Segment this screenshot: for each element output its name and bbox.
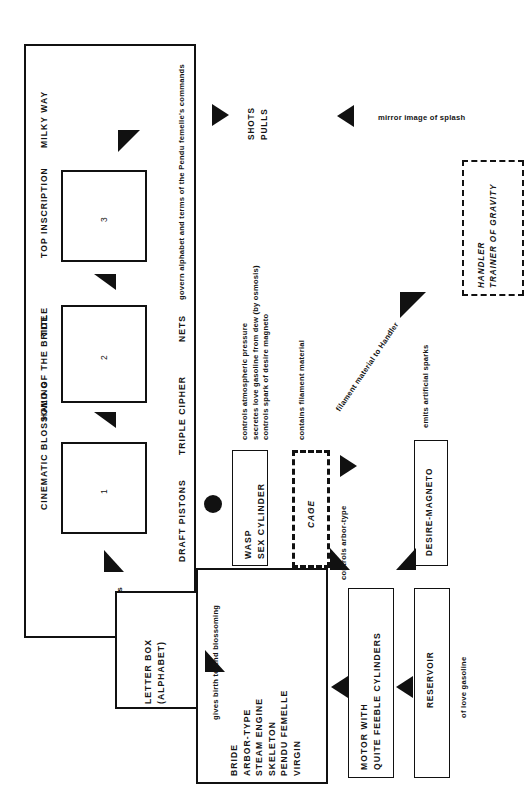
arrow-wedge-alphabetic-units [104,550,124,572]
arrow-shots-pulls [212,104,229,126]
arrow-wedge-panel2-to-panel3 [94,274,116,290]
numbered-panel-1 [61,442,147,534]
annotation-filament-to-handler: filament material to Handler [334,320,401,413]
strip-label-draft-pistons: DRAFT PISTONS [178,479,187,562]
cage-label: CAGE [307,500,315,528]
wasp-note-1: controls atmospheric pressure [240,265,251,440]
strip-label-milky-way: MILKY WAY [40,91,49,148]
arrow-wedge-milky-way [118,130,140,152]
numbered-panel-2 [61,305,147,403]
wasp-note-3: controls spark of desire magneto [261,265,272,440]
arrow-motor-left [331,676,348,698]
bride-list-item-pendu-femelle: PENDU FEMELLE [278,690,291,776]
motor-line1: MOTOR WITH [358,632,371,770]
annotation-contains-filament: contains filament material [298,340,306,440]
wasp-notes: controls atmospheric pressure secretes l… [240,265,272,440]
numbered-panel-3 [61,170,147,262]
handler-box-labels: HANDLER TRAINER OF GRAVITY [476,184,500,288]
strip-note-nets: govern alphabet and terms of the Pendu f… [178,64,186,300]
label-pulls: PULLS [261,108,269,140]
arrow-wedge-panel1-to-panel2 [94,412,116,428]
strip-label-top-inscription: TOP INSCRIPTION [40,167,49,258]
bride-list-item-virgin: VIRGIN [291,690,304,776]
strip-label-triple-cipher: TRIPLE CIPHER [178,376,187,455]
motor-line2: QUITE FEEBLE CYLINDERS [371,632,384,770]
bride-list-item-steam-engine: STEAM ENGINE [253,690,266,776]
arrow-reservoir-left [396,676,413,698]
letter-box-line2: (ALPHABET) [155,639,168,704]
annotation-emits-sparks: emits artificial sparks [422,345,430,428]
numbered-panel-3-label: 3 [100,217,109,222]
annotation-mirror-image-of-splash: mirror image of splash [378,114,465,122]
strip-label-title: TITLE [40,307,49,336]
handler-line1: HANDLER [476,184,488,288]
numbered-panel-1-label: 1 [100,489,109,494]
strip-label-nets: NETS [178,315,187,342]
sieve-dot [204,495,222,513]
bride-list-item-arbor-type: ARBOR-TYPE [241,690,254,776]
bride-list-item-bride: BRIDE [228,690,241,776]
arrow-wedge-to-handler [400,292,426,318]
wasp-note-2: secretes love gasoline from dew (by osmo… [251,265,262,440]
annotation-gives-birth: gives birth to 2nd blossoming [212,605,220,720]
bride-list-item-skeleton: SKELETON [266,690,279,776]
arrow-wedge-desire-magneto [396,548,416,570]
bride-list-labels: BRIDE ARBOR-TYPE STEAM ENGINE SKELETON P… [228,690,303,776]
wasp-line2: SEX CYLINDER [255,483,268,559]
wasp-line1: WASP [242,483,255,559]
handler-line2: TRAINER OF GRAVITY [488,184,500,288]
annotation-controls-arbor-type: controls arbor-type [340,506,348,580]
motor-box-labels: MOTOR WITH QUITE FEEBLE CYLINDERS [358,632,383,770]
arrow-mirror-splash [337,105,354,127]
arrow-cage-right [340,455,357,477]
reservoir-label: RESERVOIR [427,651,435,708]
desire-magneto-label: DESIRE-MAGNETO [426,468,434,556]
numbered-panel-2-label: 2 [100,355,109,360]
wasp-box-labels: WASP SEX CYLINDER [242,483,267,559]
letter-box-labels: LETTER BOX (ALPHABET) [142,639,167,704]
letter-box-line1: LETTER BOX [142,639,155,704]
label-shots: SHOTS [248,107,256,140]
annotation-of-love-gasoline: of love gasoline [460,657,468,718]
